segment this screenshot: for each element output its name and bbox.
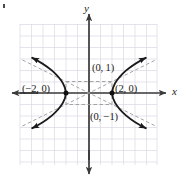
label-covertex-top: (0, 1) — [92, 63, 114, 74]
y-axis-label: y — [84, 3, 89, 14]
vertex-point-right — [110, 91, 115, 96]
x-axis-label: x — [172, 86, 177, 97]
label-vertex-right: (2, 0) — [115, 84, 137, 95]
hyperbola-figure: (−2, 0) (2, 0) (0, 1) (0, −1) x y — [0, 0, 186, 182]
label-vertex-left: (−2, 0) — [22, 84, 50, 95]
vertex-point-left — [64, 91, 69, 96]
hyperbola-left-branch-bottom — [32, 93, 66, 128]
label-covertex-bottom: (0, −1) — [90, 112, 118, 123]
